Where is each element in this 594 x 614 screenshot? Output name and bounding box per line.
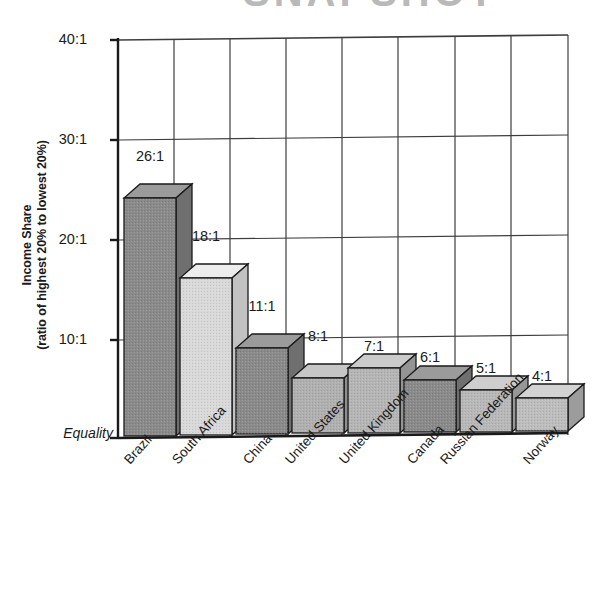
cat-label-russian-federation: Russian Federation [437, 370, 526, 467]
chart-figure: SNAPSHOT Income Share (ratio of highest … [0, 0, 594, 614]
cat-label-south-africa: South Africa [169, 403, 229, 467]
x-axis-labels: Brazil South Africa China United States … [0, 0, 594, 614]
cat-label-china: China [240, 431, 275, 467]
cat-label-brazil: Brazil [121, 432, 155, 467]
cat-label-united-kingdom: United Kingdom [336, 386, 411, 467]
cat-label-norway: Norway [520, 423, 562, 467]
